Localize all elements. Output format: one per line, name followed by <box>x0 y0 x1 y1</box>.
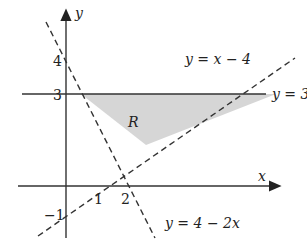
tick-y-minus-1: −1 <box>44 207 65 223</box>
x-axis-label: x <box>258 168 266 184</box>
tick-x-2: 2 <box>121 191 130 207</box>
region-r <box>81 94 276 145</box>
y-axis-label: y <box>74 5 84 21</box>
label-y-eq-x-minus-4: y = x − 4 <box>184 51 251 67</box>
region-diagram: y x 4 3 −1 1 2 y = 3 y = x − 4 y = 4 − 2… <box>0 0 307 242</box>
tick-y-4: 4 <box>53 53 62 69</box>
label-y-eq-4-minus-2x: y = 4 − 2x <box>164 215 240 231</box>
label-y-eq-3: y = 3 <box>271 86 307 102</box>
tick-y-3: 3 <box>53 87 62 103</box>
region-label: R <box>127 114 139 130</box>
line-y-eq-x-minus-4 <box>38 58 295 236</box>
tick-x-1: 1 <box>94 191 103 207</box>
